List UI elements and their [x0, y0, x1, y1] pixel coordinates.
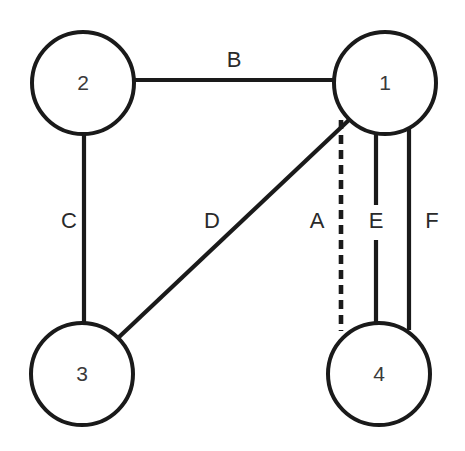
- node-1-label: 1: [379, 71, 391, 94]
- edge-b-label: B: [227, 47, 242, 72]
- edge-e-label: E: [369, 208, 384, 233]
- graph-svg: 1 2 3 4 A B C D E F: [0, 0, 465, 451]
- edge-d-label: D: [204, 208, 220, 233]
- node-2-label: 2: [77, 71, 89, 94]
- node-4-label: 4: [373, 362, 385, 385]
- node-3-label: 3: [76, 362, 88, 385]
- edge-f-label: F: [425, 208, 438, 233]
- graph-diagram-canvas: 1 2 3 4 A B C D E F: [0, 0, 465, 451]
- edge-c-label: C: [61, 208, 77, 233]
- edge-a-label: A: [310, 208, 325, 233]
